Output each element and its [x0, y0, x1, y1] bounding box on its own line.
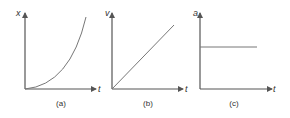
panel-b-caption: (b) [143, 100, 153, 108]
panel-a-caption: (a) [56, 100, 66, 108]
panel-c-y-label: a [193, 9, 198, 18]
panel-b-y-label: v [105, 9, 110, 18]
panel-a-y-label: x [16, 9, 21, 18]
panel-a-parabola-curve [25, 17, 86, 89]
panel-b-x-label: t [185, 85, 188, 94]
panel-b-linear-line [112, 25, 174, 89]
panel-a-x-label: t [98, 85, 101, 94]
panel-c-caption: (c) [229, 100, 238, 108]
panel-a-graph [25, 13, 96, 89]
motion-graphs-figure: x t (a) v t (b) a t (c) [0, 0, 290, 118]
panel-b-graph [112, 13, 183, 89]
panel-c-graph [200, 13, 272, 89]
panel-c-x-label: t [273, 85, 276, 94]
